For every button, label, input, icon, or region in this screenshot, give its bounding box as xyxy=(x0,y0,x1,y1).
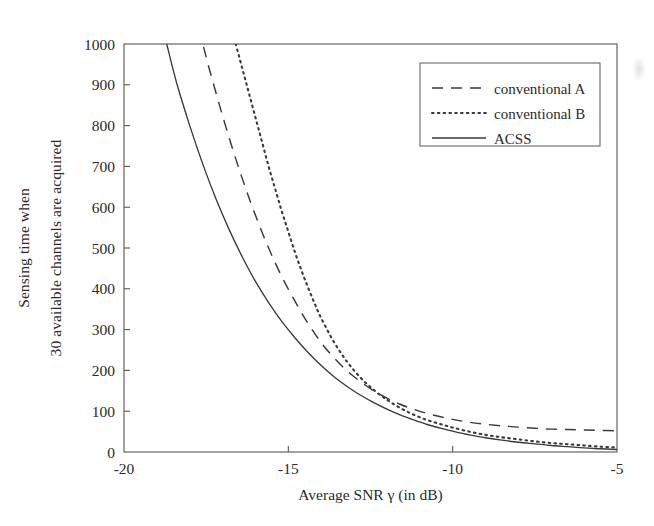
y-tick-label: 200 xyxy=(92,362,116,379)
scan-artifact xyxy=(632,56,646,82)
legend: conventional Aconventional BACSS xyxy=(420,63,600,147)
y-axis-tick-labels: 01002003004005006007008009001000 xyxy=(84,36,115,461)
x-axis-ticks xyxy=(288,446,452,452)
y-tick-label: 500 xyxy=(92,240,116,257)
x-tick-label: -10 xyxy=(442,460,463,477)
figure-container: Sensing time when 30 available channels … xyxy=(0,0,654,526)
legend-label: conventional A xyxy=(494,81,585,97)
y-tick-label: 0 xyxy=(107,444,115,461)
y-axis-title-line-1: Sensing time when xyxy=(15,188,33,308)
y-tick-label: 800 xyxy=(92,117,116,134)
legend-label: conventional B xyxy=(494,106,585,122)
y-axis-title-line-2: 30 available channels are acquired xyxy=(47,140,65,357)
y-tick-label: 400 xyxy=(92,280,116,297)
y-tick-label: 600 xyxy=(92,199,116,216)
y-tick-label: 300 xyxy=(92,321,116,338)
y-tick-label: 700 xyxy=(92,158,116,175)
y-tick-label: 1000 xyxy=(84,36,115,53)
y-axis-ticks xyxy=(124,85,130,411)
x-tick-label: -15 xyxy=(278,460,299,477)
plot-svg: 01002003004005006007008009001000 -20-15-… xyxy=(0,0,654,526)
x-tick-label: -20 xyxy=(114,460,135,477)
y-axis-title: Sensing time when 30 available channels … xyxy=(14,44,62,452)
x-axis-title: Average SNR γ (in dB) xyxy=(124,486,617,504)
x-axis-tick-labels: -20-15-10-5 xyxy=(114,460,624,477)
y-tick-label: 100 xyxy=(92,403,116,420)
y-tick-label: 900 xyxy=(92,76,116,93)
legend-label: ACSS xyxy=(494,131,532,147)
x-tick-label: -5 xyxy=(611,460,624,477)
